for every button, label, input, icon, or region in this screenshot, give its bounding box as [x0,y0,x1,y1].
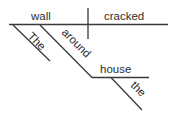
subject-word: wall [30,10,51,22]
subject-article-word: The [26,30,49,53]
verb-word: cracked [104,10,144,22]
sentence-diagram: wall cracked The around house the [0,0,171,115]
object-article-word: the [129,79,149,99]
object-word: house [100,63,131,75]
